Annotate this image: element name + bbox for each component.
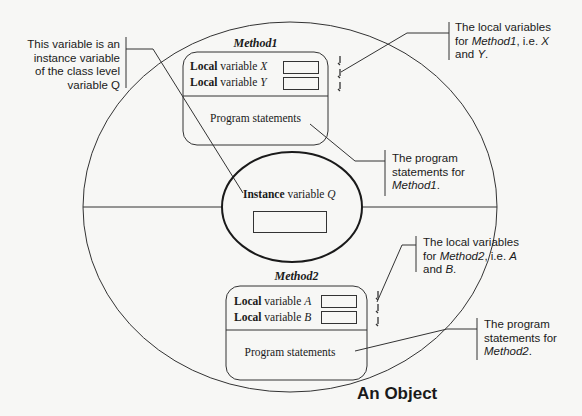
local-keyword: Local bbox=[190, 60, 217, 72]
callout-line: for Method1, i.e. X bbox=[455, 35, 582, 49]
instance-variable-box bbox=[253, 211, 327, 233]
method2-title: Method2 bbox=[226, 269, 367, 284]
method2-program-statements: Program statements bbox=[226, 346, 354, 358]
local-keyword: Local bbox=[190, 76, 217, 88]
method2-var-a-box bbox=[321, 295, 357, 308]
local-keyword: Local bbox=[234, 311, 261, 323]
variable-name: Q bbox=[327, 188, 335, 200]
method2-var-b-box bbox=[321, 311, 357, 324]
callout-text: , i.e. bbox=[516, 35, 541, 47]
method1-statements-callout: The program statements for Method1. bbox=[392, 152, 502, 193]
callout-var-name: X bbox=[541, 35, 549, 47]
method1-var-x-box bbox=[283, 61, 319, 74]
method2-locals-callout: The local variables for Method2, i.e. A … bbox=[423, 236, 582, 277]
callout-text: , i.e. bbox=[484, 250, 509, 262]
callout-text: . bbox=[485, 48, 488, 60]
callout-line: This variable is an bbox=[0, 38, 120, 52]
callout-text: . bbox=[453, 263, 456, 275]
callout-line: The program bbox=[392, 152, 502, 166]
callout-text: . bbox=[529, 345, 532, 357]
method2-var-b-label: Local variable B bbox=[234, 311, 311, 323]
variable-word: variable bbox=[285, 188, 328, 200]
variable-name: X bbox=[260, 60, 267, 72]
variable-word: variable bbox=[217, 76, 260, 88]
callout-line: statements for bbox=[392, 166, 502, 180]
variable-name: A bbox=[304, 295, 311, 307]
method1-bracket-icon bbox=[338, 56, 340, 91]
callout-line: for Method2, i.e. A bbox=[423, 250, 582, 264]
method1-var-y-box bbox=[283, 77, 319, 90]
variable-name: Y bbox=[260, 76, 266, 88]
method1-program-statements: Program statements bbox=[183, 112, 328, 124]
instance-keyword: Instance bbox=[243, 188, 285, 200]
callout-line: The local variables bbox=[423, 236, 582, 250]
method1-var-y-label: Local variable Y bbox=[190, 76, 267, 88]
variable-word: variable bbox=[261, 295, 304, 307]
method1-locals-leader bbox=[341, 33, 449, 72]
callout-var-name: A bbox=[509, 250, 517, 262]
callout-line: statements for bbox=[484, 332, 582, 346]
callout-method-name: Method2 bbox=[484, 345, 529, 357]
instance-variable-label: Instance variable Q bbox=[243, 188, 336, 200]
variable-name: B bbox=[304, 311, 311, 323]
callout-method-name: Method1 bbox=[392, 179, 437, 191]
callout-var-name: B bbox=[445, 263, 453, 275]
diagram-title: An Object bbox=[357, 384, 437, 404]
callout-text: for bbox=[423, 250, 440, 262]
method1-var-x-label: Local variable X bbox=[190, 60, 267, 72]
variable-word: variable bbox=[217, 60, 260, 72]
callout-line: variable Q bbox=[0, 79, 120, 93]
instance-note-callout: This variable is an instance variable of… bbox=[0, 38, 120, 92]
method2-statements-leader bbox=[355, 329, 477, 351]
instance-ellipse bbox=[222, 152, 362, 262]
callout-line: of the class level bbox=[0, 65, 120, 79]
method2-locals-leader bbox=[377, 245, 416, 302]
callout-line: and Y. bbox=[455, 48, 582, 62]
object-diagram: Method1 Local variable X Local variable … bbox=[0, 0, 582, 416]
callout-text: and bbox=[423, 263, 445, 275]
callout-line: instance variable bbox=[0, 52, 120, 66]
callout-var-name: Y bbox=[477, 48, 485, 60]
callout-line: The program bbox=[484, 318, 582, 332]
callout-text: . bbox=[437, 179, 440, 191]
callout-line: Method1. bbox=[392, 179, 502, 193]
callout-line: Method2. bbox=[484, 345, 582, 359]
variable-word: variable bbox=[261, 311, 304, 323]
callout-method-name: Method2 bbox=[440, 250, 485, 262]
method2-bracket-icon bbox=[376, 291, 378, 326]
callout-line: The local variables bbox=[455, 21, 582, 35]
callout-text: for bbox=[455, 35, 472, 47]
method2-statements-callout: The program statements for Method2. bbox=[484, 318, 582, 359]
callout-line: and B. bbox=[423, 263, 582, 277]
callout-method-name: Method1 bbox=[472, 35, 517, 47]
local-keyword: Local bbox=[234, 295, 261, 307]
callout-text: and bbox=[455, 48, 477, 60]
method1-title: Method1 bbox=[183, 36, 328, 51]
method1-locals-callout: The local variables for Method1, i.e. X … bbox=[455, 21, 582, 62]
method2-var-a-label: Local variable A bbox=[234, 295, 311, 307]
